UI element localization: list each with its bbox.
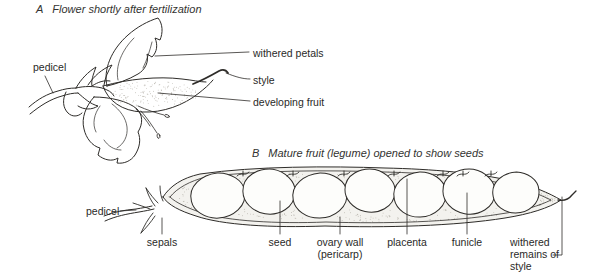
withered-petal-shape: [106, 18, 162, 86]
label-developing-fruit: developing fruit: [253, 96, 324, 108]
panel-a-title-text: Flower shortly after fertilization: [52, 3, 201, 15]
label-style: style: [253, 74, 275, 86]
label-funicle: funicle: [452, 236, 482, 248]
label-withered-petals: withered petals: [253, 47, 324, 59]
label-sepals: sepals: [147, 236, 177, 248]
label-withered-remains: withered remains of style: [510, 236, 564, 272]
flower-sepal: [78, 93, 98, 109]
withered-petal-fold: [117, 38, 134, 80]
legume-sepal: [146, 188, 158, 203]
panel-a-letter: A: [36, 3, 43, 15]
flower-sepal: [64, 92, 82, 116]
label-seed: seed: [269, 236, 292, 248]
flower-pedicel-shape: [30, 93, 78, 114]
pod-tip-style: [558, 191, 576, 200]
style-shape: [193, 70, 228, 84]
diagram-canvas: [0, 0, 597, 272]
stamen-anther: [164, 114, 169, 118]
developing-fruit-top: [103, 78, 206, 86]
flower-illustration: [29, 18, 228, 163]
lower-petal-fold: [104, 140, 121, 150]
flower-sepal: [76, 67, 110, 88]
botanical-diagram: A Flower shortly after fertilization ped…: [0, 0, 597, 272]
panel-b-letter: B: [252, 147, 259, 159]
flower-pedicel-shape: [29, 88, 76, 107]
panel-b-title-text: Mature fruit (legume) opened to show see…: [268, 147, 483, 159]
leader-style: [226, 73, 250, 79]
label-pedicel-a: pedicel: [33, 61, 66, 73]
legume-sepal: [141, 216, 155, 233]
flower-sepal: [76, 87, 114, 97]
legume-sepal: [160, 186, 163, 201]
leader-pedicel-b: [120, 210, 136, 211]
label-placenta: placenta: [387, 236, 427, 248]
stamen-anther: [157, 133, 161, 138]
stamen-filament: [141, 111, 157, 133]
lower-petal-fold: [112, 104, 127, 148]
label-ovary-wall: ovary wall (pericarp): [314, 236, 366, 260]
leader-withered-petals: [155, 52, 249, 56]
legume-sepal: [141, 213, 153, 233]
leader-developing-fruit: [158, 93, 250, 101]
panel-b-title: B Mature fruit (legume) opened to show s…: [252, 147, 484, 159]
lower-petal-fold: [94, 106, 100, 132]
label-pedicel-b: pedicel: [86, 205, 119, 217]
panel-a-title: A Flower shortly after fertilization: [36, 3, 202, 15]
leader-pedicel-a: [45, 76, 53, 93]
lower-petal-shape: [83, 97, 142, 163]
